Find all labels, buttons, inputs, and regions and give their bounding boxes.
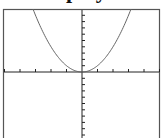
graph-plot <box>0 0 162 138</box>
axes <box>4 10 160 138</box>
